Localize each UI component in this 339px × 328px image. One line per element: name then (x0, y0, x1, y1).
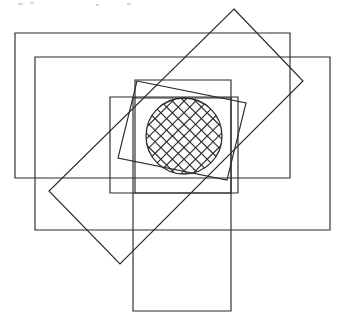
circle-hatch-fill (96, 48, 272, 224)
figure-canvas (0, 0, 339, 328)
scanner-speck (18, 3, 23, 5)
scanner-speck (30, 2, 34, 4)
rect-tilted-small (118, 81, 246, 180)
scanner-speck-group (18, 2, 131, 6)
scanner-speck (127, 3, 131, 5)
rect-tall-vertical (133, 98, 231, 311)
rect-rotated-diamond (49, 9, 303, 264)
shapes-drawing (0, 0, 339, 328)
scanner-speck (96, 4, 99, 6)
rect-outer-lower-right (35, 57, 330, 230)
